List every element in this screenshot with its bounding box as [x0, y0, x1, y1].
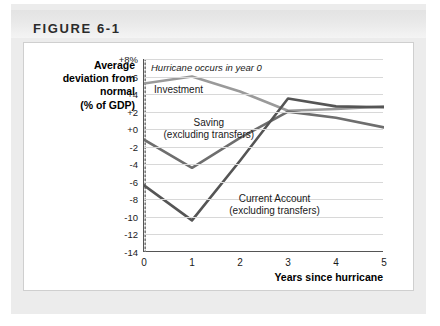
x-axis-tick-label: 2 [237, 257, 243, 268]
series-label-line: Investment [154, 84, 203, 96]
y-axis-tick-label: +2 [78, 106, 138, 117]
x-axis-tick-label: 0 [141, 257, 147, 268]
gridline [144, 59, 383, 60]
y-axis-tick-label: -8 [78, 194, 138, 205]
series-label: Investment [154, 84, 203, 96]
gridline [144, 164, 383, 165]
series-label-line: Saving [164, 117, 255, 129]
series-label-line: Current Account [229, 193, 320, 205]
figure-title: FIGURE 6-1 [33, 21, 121, 36]
y-axis-tick-label: -12 [78, 229, 138, 240]
x-axis-label: Years since hurricane [224, 271, 383, 283]
figure-panel: FIGURE 6-1 Average deviation from normal… [11, 4, 426, 314]
gridline [144, 182, 383, 183]
y-axis-tick-label: -14 [78, 247, 138, 258]
x-axis-tick-label: 3 [285, 257, 291, 268]
series-label: Saving(excluding transfers) [164, 117, 255, 141]
gridline [144, 217, 383, 218]
figure-card: Average deviation from normal (% of GDP)… [23, 42, 414, 291]
y-axis-tick-label: +4 [78, 89, 138, 100]
y-axis-tick-label: -4 [78, 159, 138, 170]
gridline [144, 147, 383, 148]
figure-header-bar: FIGURE 6-1 [11, 10, 426, 38]
series-label: Current Account(excluding transfers) [229, 193, 320, 217]
series-label-line: (excluding transfers) [229, 205, 320, 217]
y-axis-tick-label: -2 [78, 141, 138, 152]
gridline [144, 112, 383, 113]
x-axis-tick-label: 1 [189, 257, 195, 268]
y-axis-tick-label: -6 [78, 176, 138, 187]
y-axis-label: Average deviation from normal (% of GDP) [30, 59, 135, 112]
series-label-line: (excluding transfers) [164, 129, 255, 141]
gridline [144, 234, 383, 235]
x-axis-tick-label: 4 [333, 257, 339, 268]
y-axis-tick-label: +0 [78, 124, 138, 135]
y-axis-tick-label: +8% [78, 54, 138, 65]
x-axis-tick-label: 5 [381, 257, 387, 268]
y-axis-tick-label: +6 [78, 71, 138, 82]
y-axis-tick-label: -10 [78, 211, 138, 222]
gridline [144, 77, 383, 78]
hurricane-annotation: Hurricane occurs in year 0 [151, 61, 262, 72]
chart-area: Average deviation from normal (% of GDP)… [24, 43, 413, 290]
plot-region: +8%+6+4+2+0-2-4-6-8-10-12-14 012345 Hurr… [143, 59, 383, 252]
